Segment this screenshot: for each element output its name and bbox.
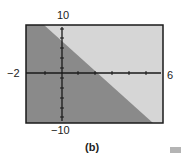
xmax-label: 6 bbox=[167, 70, 173, 81]
graph bbox=[0, 0, 183, 161]
xmin-label: −2 bbox=[7, 68, 20, 79]
caption: (b) bbox=[85, 141, 99, 153]
decorative-square bbox=[170, 147, 181, 153]
ymax-label: 10 bbox=[57, 10, 69, 21]
ymin-label: −10 bbox=[51, 125, 70, 136]
